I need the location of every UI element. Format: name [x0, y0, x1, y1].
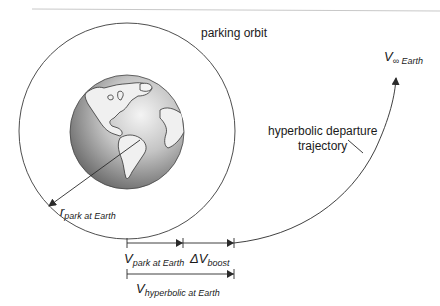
earth-globe-icon	[70, 75, 184, 189]
hyperbolic-trajectory-label: hyperbolic departure trajectory	[268, 124, 377, 154]
v-infinity-sub: ∞ Earth	[393, 56, 423, 66]
v-infinity-label: V∞ Earth	[384, 50, 423, 64]
v-hyperbolic-main: V	[136, 281, 145, 296]
top-rule	[32, 9, 440, 11]
v-hyperbolic-label: Vhyperbolic at Earth	[136, 282, 220, 296]
hyperbolic-trajectory-line2: trajectory	[268, 139, 377, 154]
v-park-label: Vpark at Earth	[124, 252, 184, 266]
hyperbolic-trajectory-curve	[234, 78, 396, 243]
v-park-sub: park at Earth	[133, 258, 185, 268]
r-park-label: rpark at Earth	[60, 205, 116, 219]
v-hyperbolic-arrowhead	[227, 270, 234, 278]
dv-boost-label: ΔVboost	[190, 252, 229, 266]
dv-boost-main: ΔV	[190, 251, 207, 266]
dv-boost-sub: boost	[207, 258, 229, 268]
parking-orbit-label: parking orbit	[201, 27, 267, 39]
v-park-arrowhead	[176, 239, 183, 247]
hyperbolic-trajectory-line1: hyperbolic departure	[268, 124, 377, 139]
v-hyperbolic-sub: hyperbolic at Earth	[145, 288, 220, 298]
r-park-sub: park at Earth	[64, 211, 116, 221]
v-infinity-main: V	[384, 49, 393, 64]
v-park-main: V	[124, 251, 133, 266]
dv-boost-arrowhead	[227, 239, 234, 247]
